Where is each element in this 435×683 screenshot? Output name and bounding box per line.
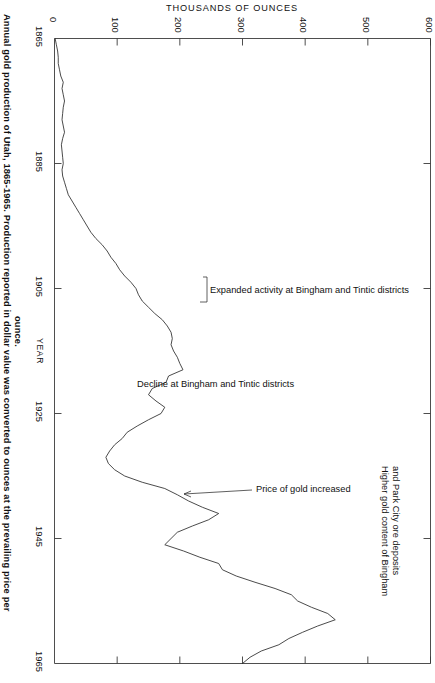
value-tick-label-100: 100 — [110, 17, 121, 33]
value-axis-title: THOUSANDS OF OUNCES — [166, 3, 298, 13]
leader-price-of-gold — [184, 490, 252, 494]
year-tick-label-1925: 1925 — [34, 401, 45, 422]
year-tick-label-1965: 1965 — [34, 651, 45, 672]
value-tick-label-600: 600 — [424, 17, 435, 33]
year-tick-label-1945: 1945 — [34, 526, 45, 547]
value-tick-label-400: 400 — [298, 17, 309, 33]
production-line — [55, 39, 335, 664]
annotation-expanded-activity: Expanded activity at Bingham and Tintic … — [210, 285, 409, 295]
plot-area — [0, 0, 435, 683]
figure-caption-line-2: ounce. — [13, 316, 23, 347]
year-axis-title: YEAR — [35, 338, 45, 364]
year-tick-label-1905: 1905 — [34, 276, 45, 297]
annotation-decline: Decline at Bingham and Tintic districts — [137, 379, 294, 389]
figure-caption: Annual gold production of Utah, 1865-196… — [0, 0, 24, 683]
value-tick-label-0: 0 — [48, 17, 59, 22]
figure-gold-production-utah: Annual gold production of Utah, 1865-196… — [0, 0, 435, 683]
figure-caption-line-1: Annual gold production of Utah, 1865-196… — [2, 14, 12, 612]
annotation-price-of-gold: Price of gold increased — [256, 484, 351, 494]
year-tick-label-1885: 1885 — [34, 151, 45, 172]
production-series-group — [55, 39, 335, 664]
year-tick-label-1865: 1865 — [34, 26, 45, 47]
value-tick-label-200: 200 — [173, 17, 184, 33]
annotation-higher-gold-content-line-1: Higher gold content of Bingham — [380, 466, 390, 596]
value-tick-label-300: 300 — [236, 17, 247, 33]
leader-expanded-activity — [200, 277, 207, 302]
annotation-higher-gold-content-line-2: and Park City ore deposits — [391, 466, 401, 575]
value-tick-label-500: 500 — [361, 17, 372, 33]
axes-group — [55, 39, 431, 664]
